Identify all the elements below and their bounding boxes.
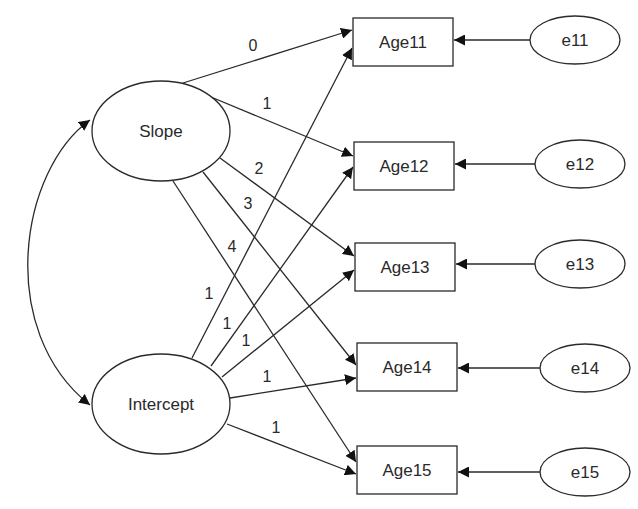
intercept-loading-label-age13: 1 — [242, 332, 251, 349]
observed-variable-age15[interactable]: Age15 — [357, 446, 457, 494]
intercept-loading-label-age11: 1 — [205, 285, 214, 302]
slope-loading-label-age12: 1 — [263, 95, 272, 112]
observed-label: Age11 — [379, 33, 427, 52]
error-term-e12[interactable]: e12 — [535, 140, 625, 188]
slope-loading-label-age11: 0 — [249, 37, 258, 54]
observed-variable-age14[interactable]: Age14 — [357, 343, 457, 391]
intercept-loading-label-age14: 1 — [263, 368, 272, 385]
observed-variable-age12[interactable]: Age12 — [354, 142, 454, 190]
observed-label: Age13 — [380, 258, 429, 277]
observed-label: Age14 — [382, 358, 431, 377]
slope-loading-label-age15: 4 — [228, 238, 237, 255]
latent-label: Slope — [139, 122, 182, 141]
path-diagram: 0123411111 SlopeInterceptAge11Age12Age13… — [0, 0, 638, 509]
latent-label: Intercept — [128, 395, 194, 414]
latent-factor-slope[interactable]: Slope — [92, 81, 230, 181]
intercept-loading-label-age12: 1 — [223, 315, 232, 332]
error-label: e13 — [566, 255, 594, 274]
error-label: e14 — [571, 359, 599, 378]
error-label: e12 — [566, 155, 594, 174]
intercept-loading-label-age15: 1 — [272, 419, 281, 436]
observed-variable-age11[interactable]: Age11 — [353, 18, 453, 66]
error-label: e15 — [571, 463, 599, 482]
error-label: e11 — [561, 31, 588, 50]
observed-label: Age12 — [379, 157, 428, 176]
intercept-loading-arrow-age14 — [230, 378, 356, 398]
observed-variable-age13[interactable]: Age13 — [355, 243, 455, 291]
latent-factor-intercept[interactable]: Intercept — [92, 354, 230, 454]
slope-loading-label-age14: 3 — [244, 195, 253, 212]
error-term-e13[interactable]: e13 — [535, 240, 625, 288]
slope-loading-label-age13: 2 — [255, 160, 264, 177]
observed-label: Age15 — [382, 461, 431, 480]
slope-loading-arrow-age11 — [183, 30, 352, 83]
intercept-loading-arrow-age12 — [211, 167, 353, 366]
error-term-e15[interactable]: e15 — [540, 448, 630, 496]
error-term-e11[interactable]: e11 — [530, 16, 620, 64]
slope-loading-arrow-age12 — [211, 97, 353, 156]
error-term-e14[interactable]: e14 — [540, 344, 630, 392]
covariance-arrow — [28, 120, 90, 405]
